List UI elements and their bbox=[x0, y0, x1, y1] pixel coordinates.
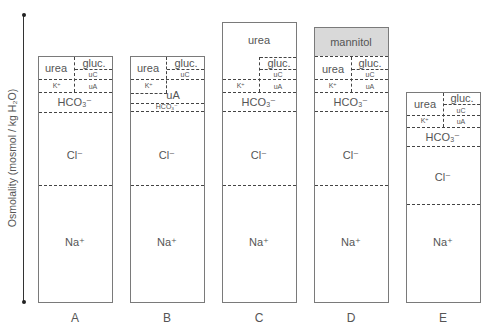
column-c-na-label: Na⁺ bbox=[249, 236, 269, 249]
column-a-hco3-divider bbox=[39, 112, 112, 113]
column-c-ua-label: uA bbox=[274, 83, 283, 90]
column-b-vertical-divider bbox=[166, 57, 167, 93]
column-e-cl-label: Cl⁻ bbox=[435, 171, 451, 184]
column-b-hco3-divider bbox=[131, 111, 204, 112]
column-b-ua-label: uA bbox=[166, 89, 179, 101]
column-a-na-label: Na⁺ bbox=[65, 236, 85, 249]
column-d-mannitol-label: mannitol bbox=[330, 36, 372, 48]
column-e-urea-divider bbox=[407, 115, 480, 116]
column-e-ua-label: uA bbox=[457, 118, 466, 125]
column-c-vertical-divider bbox=[259, 57, 260, 92]
column-e-na-label: Na⁺ bbox=[433, 236, 453, 249]
column-d-urea-label: urea bbox=[322, 63, 344, 75]
y-axis-top-dot bbox=[22, 13, 26, 17]
column-b-k-label: K⁺ bbox=[145, 82, 154, 90]
column-a-hco3-label: HCO₃⁻ bbox=[58, 96, 93, 109]
column-a-category-label: A bbox=[71, 311, 79, 325]
column-b-gluc-label: gluc. bbox=[174, 57, 197, 69]
column-a-urea-label: urea bbox=[45, 62, 67, 74]
column-c-uc-label: uC bbox=[274, 71, 283, 78]
column-b-cl-divider bbox=[131, 185, 204, 186]
column-d-k-divider bbox=[315, 92, 388, 93]
column-c-urea-divider bbox=[223, 79, 296, 80]
column-d-cl-divider bbox=[315, 185, 388, 186]
column-b-cl-label: Cl⁻ bbox=[159, 149, 175, 162]
column-b-urea-label: urea bbox=[137, 62, 159, 74]
column-b-category-label: B bbox=[163, 311, 171, 325]
column-d-gluc-label: gluc. bbox=[358, 57, 381, 69]
column-d-uc-label: uC bbox=[366, 71, 375, 78]
column-c-hco3-divider bbox=[223, 111, 296, 112]
column-c-cl-divider bbox=[223, 185, 296, 186]
column-d-na-label: Na⁺ bbox=[341, 236, 361, 249]
column-b-urea-divider bbox=[131, 79, 204, 80]
column-c-k-label: K⁺ bbox=[237, 82, 246, 90]
column-e-k-divider bbox=[407, 127, 480, 128]
column-c-gluc-label: gluc. bbox=[267, 57, 290, 69]
column-c-category-label: C bbox=[255, 311, 264, 325]
column-e-urea-label: urea bbox=[414, 98, 436, 110]
column-b-hco3-label: HCO₃⁻ bbox=[156, 103, 178, 111]
column-d-hco3-label: HCO₃⁻ bbox=[334, 96, 369, 109]
column-e-gluc-label: gluc. bbox=[450, 92, 473, 104]
column-d-category-label: D bbox=[347, 311, 356, 325]
column-a-uc-label: uC bbox=[89, 71, 98, 78]
column-b-na-label: Na⁺ bbox=[157, 236, 177, 249]
column-d-cl-label: Cl⁻ bbox=[343, 149, 359, 162]
column-c-hco3-label: HCO₃⁻ bbox=[242, 96, 277, 109]
column-d-urea-divider bbox=[315, 79, 388, 80]
y-axis-line bbox=[23, 15, 24, 302]
column-d-k-label: K⁺ bbox=[329, 82, 338, 90]
column-c-k-divider bbox=[223, 92, 296, 93]
y-axis-bottom-dot bbox=[22, 300, 26, 304]
column-a-gluc-label: gluc. bbox=[82, 57, 105, 69]
column-a-cl-divider bbox=[39, 185, 112, 186]
column-c-cl-label: Cl⁻ bbox=[251, 149, 267, 162]
column-e-k-label: K⁺ bbox=[421, 117, 430, 125]
column-d-vertical-divider bbox=[351, 57, 352, 92]
column-e-cl-divider bbox=[407, 204, 480, 205]
column-e-category-label: E bbox=[439, 311, 447, 325]
column-e-vertical-divider bbox=[443, 93, 444, 127]
column-a-k-label: K⁺ bbox=[53, 82, 62, 90]
column-a-urea-divider bbox=[39, 79, 112, 80]
column-e-uc-label: uC bbox=[457, 107, 466, 114]
column-a-vertical-divider bbox=[74, 57, 75, 92]
column-b-k-divider bbox=[131, 93, 167, 94]
column-c-urea-label: urea bbox=[248, 34, 270, 46]
column-d-ua-label: uA bbox=[366, 83, 375, 90]
column-e-hco3-divider bbox=[407, 146, 480, 147]
column-e-gluc-divider bbox=[444, 104, 480, 105]
column-b-uc-label: uC bbox=[181, 71, 190, 78]
column-a-cl-label: Cl⁻ bbox=[67, 149, 83, 162]
column-a-ua-label: uA bbox=[89, 83, 98, 90]
column-a-k-divider bbox=[39, 92, 112, 93]
column-d-hco3-divider bbox=[315, 111, 388, 112]
column-e-hco3-label: HCO₃⁻ bbox=[426, 131, 461, 144]
column-a-box bbox=[38, 56, 113, 303]
y-axis-label: Osmolality (mosmol / kg H₂O) bbox=[6, 89, 18, 227]
